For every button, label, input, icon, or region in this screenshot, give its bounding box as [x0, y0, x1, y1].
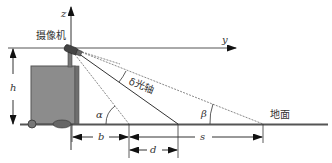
b-label: b [98, 131, 104, 142]
delta-arc [119, 71, 126, 82]
wheel-right [53, 120, 71, 128]
optical-axis-ray [75, 51, 178, 124]
alpha-label: α [96, 109, 103, 120]
h-label: h [10, 82, 16, 93]
y-axis-label: y [221, 34, 228, 45]
s-label: s [200, 131, 205, 142]
camera-mast [68, 52, 72, 67]
camera-geometry-diagram: y z 摄像机 地面 α β δ光轴 h b s d [0, 0, 332, 163]
beta-arc [210, 104, 213, 124]
camera-label: 摄像机 [36, 29, 66, 41]
vehicle-box [31, 66, 75, 124]
beta-label: β [200, 108, 207, 119]
z-axis-label: z [60, 8, 67, 19]
ground-label: 地面 [270, 108, 290, 120]
optical-axis-label: δ光轴 [127, 75, 156, 96]
cone-upper-ray [76, 50, 120, 64]
wheel-left [28, 120, 36, 128]
camera-icon [63, 44, 82, 57]
d-label: d [150, 144, 156, 155]
vehicle-box-side [75, 66, 79, 124]
beta-ray [76, 50, 263, 124]
alpha-arc [106, 106, 115, 124]
